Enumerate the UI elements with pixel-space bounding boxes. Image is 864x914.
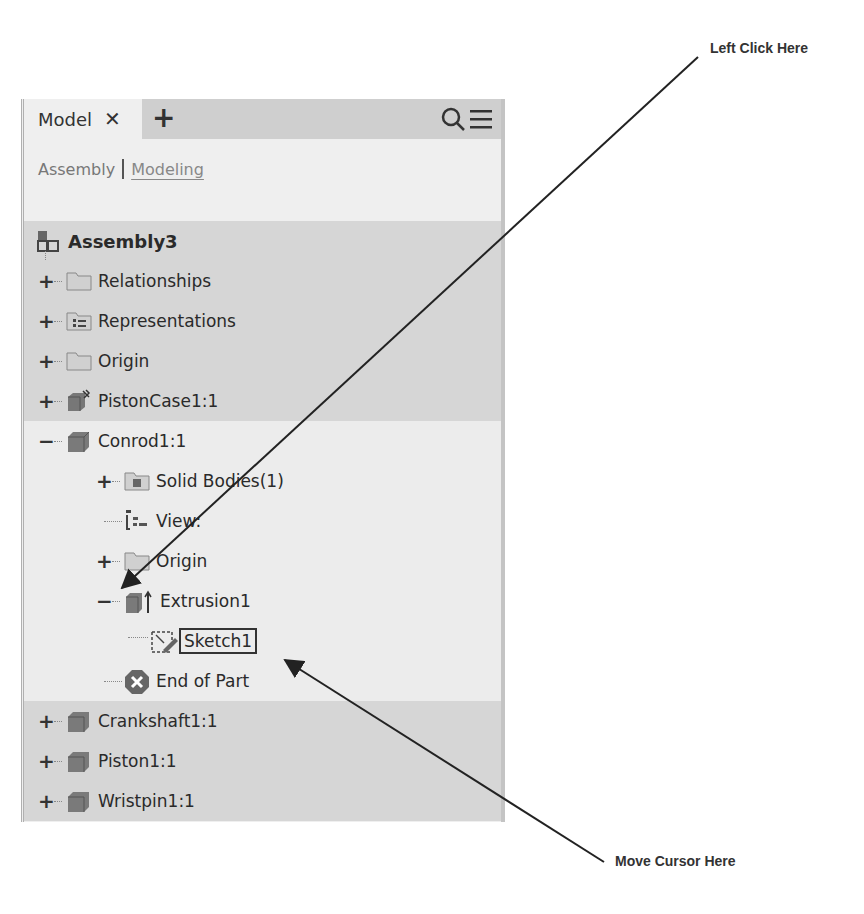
model-tree: Assembly3 + Relationships + Representati… — [24, 221, 501, 822]
plus-icon[interactable]: + — [152, 103, 175, 133]
solid-bodies-folder-icon — [124, 469, 150, 493]
tree-item-part-origin[interactable]: + Origin — [24, 541, 501, 581]
representations-folder-icon — [66, 309, 92, 333]
tree-item-crankshaft[interactable]: + Crankshaft1:1 — [24, 701, 501, 741]
tree-item-label-selected[interactable]: Sketch1 — [182, 631, 254, 651]
folder-icon — [66, 269, 92, 293]
tree-item-label: PistonCase1:1 — [98, 391, 218, 411]
subtab-modeling[interactable]: Modeling — [131, 160, 204, 179]
tree-item-extrusion[interactable]: − Extrusion1 — [24, 581, 501, 621]
part-icon — [66, 709, 92, 733]
extrusion-icon — [124, 589, 150, 613]
subtab-separator — [122, 159, 124, 179]
expand-toggle[interactable]: + — [96, 549, 110, 573]
expand-toggle[interactable]: + — [38, 749, 52, 773]
callout-move-cursor: Move Cursor Here — [615, 853, 736, 869]
tree-item-piston[interactable]: + Piston1:1 — [24, 741, 501, 781]
tree-item-wristpin[interactable]: + Wristpin1:1 — [24, 781, 501, 821]
expand-toggle[interactable]: + — [38, 269, 52, 293]
tree-item-label: Relationships — [98, 271, 211, 291]
tab-bar: Model ✕ + — [24, 99, 501, 139]
subtab-assembly[interactable]: Assembly — [38, 160, 115, 179]
tree-item-label: Crankshaft1:1 — [98, 711, 218, 731]
tree-item-label: Solid Bodies(1) — [156, 471, 284, 491]
callout-left-click: Left Click Here — [710, 40, 808, 56]
expand-toggle[interactable]: + — [38, 789, 52, 813]
tree-item-label: Wristpin1:1 — [98, 791, 195, 811]
tree-item-label: End of Part — [156, 671, 249, 691]
tree-item-label: Piston1:1 — [98, 751, 177, 771]
tab-model[interactable]: Model ✕ — [24, 99, 142, 139]
sketch-icon — [150, 629, 176, 653]
tab-model-label: Model — [38, 109, 92, 130]
expand-toggle[interactable]: + — [38, 349, 52, 373]
expand-toggle[interactable]: + — [38, 389, 52, 413]
expand-toggle[interactable]: + — [38, 309, 52, 333]
end-of-part-icon — [124, 669, 150, 693]
view-rep-icon — [124, 509, 150, 533]
search-icon[interactable] — [440, 106, 466, 132]
assembly-icon — [36, 229, 62, 253]
part-icon — [66, 789, 92, 813]
tree-item-solid-bodies[interactable]: + Solid Bodies(1) — [24, 461, 501, 501]
close-icon[interactable]: ✕ — [104, 107, 121, 131]
collapse-toggle[interactable]: − — [96, 589, 110, 613]
folder-icon — [124, 549, 150, 573]
part-icon — [66, 749, 92, 773]
tree-item-label: Representations — [98, 311, 236, 331]
expand-toggle[interactable]: + — [38, 709, 52, 733]
tree-item-end-of-part[interactable]: End of Part — [24, 661, 501, 701]
tree-item-label: View: — [156, 511, 201, 531]
tree-item-sketch[interactable]: Sketch1 — [24, 621, 501, 661]
grounded-part-icon — [66, 389, 92, 413]
tree-item-label: Conrod1:1 — [98, 431, 186, 451]
tree-item-representations[interactable]: + Representations — [24, 301, 501, 341]
folder-icon — [66, 349, 92, 373]
expand-toggle[interactable]: + — [96, 469, 110, 493]
tree-item-view[interactable]: View: — [24, 501, 501, 541]
tree-item-label: Origin — [98, 351, 149, 371]
tree-root-label: Assembly3 — [68, 231, 178, 252]
model-browser-panel: Model ✕ + Assembly Modeling Assembly3 + — [21, 99, 505, 822]
collapse-toggle[interactable]: − — [38, 429, 52, 453]
tree-item-conrod[interactable]: − Conrod1:1 — [24, 421, 501, 461]
part-icon — [66, 429, 92, 453]
tree-item-label: Extrusion1 — [160, 591, 251, 611]
tree-item-origin[interactable]: + Origin — [24, 341, 501, 381]
tree-item-label: Origin — [156, 551, 207, 571]
tree-item-relationships[interactable]: + Relationships — [24, 261, 501, 301]
tree-item-pistoncase[interactable]: + PistonCase1:1 — [24, 381, 501, 421]
browser-mode-tabs: Assembly Modeling — [38, 159, 204, 179]
hamburger-menu-icon[interactable] — [468, 106, 494, 132]
tree-root[interactable]: Assembly3 — [24, 221, 501, 261]
